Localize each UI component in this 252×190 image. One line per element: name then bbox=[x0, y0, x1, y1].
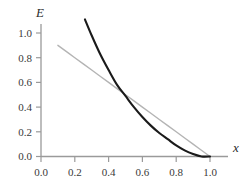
axes-group bbox=[41, 24, 228, 157]
y-tick-label: 0.0 bbox=[18, 150, 32, 162]
y-axis-label: E bbox=[35, 5, 44, 20]
series-group bbox=[58, 19, 210, 156]
y-tick-label: 0.8 bbox=[18, 52, 32, 64]
y-tick-label: 0.4 bbox=[18, 101, 32, 113]
x-tick-label: 0.8 bbox=[169, 166, 183, 178]
x-axis-ticks bbox=[41, 157, 210, 163]
x-tick-label: 0.2 bbox=[68, 166, 82, 178]
x-tick-label: 0.6 bbox=[136, 166, 150, 178]
x-tick-label: 0.4 bbox=[102, 166, 116, 178]
series-black-curve bbox=[85, 19, 210, 156]
chart-figure: 0.00.20.40.60.81.0 0.00.20.40.60.81.0 E … bbox=[0, 0, 252, 190]
x-tick-label: 0.0 bbox=[34, 166, 48, 178]
y-tick-label: 1.0 bbox=[18, 27, 32, 39]
y-tick-label: 0.2 bbox=[18, 126, 32, 138]
x-axis-tick-labels: 0.00.20.40.60.81.0 bbox=[34, 166, 217, 178]
plot-canvas: 0.00.20.40.60.81.0 0.00.20.40.60.81.0 E … bbox=[0, 0, 252, 190]
y-axis-ticks bbox=[36, 33, 41, 157]
x-axis-label: x bbox=[232, 140, 239, 155]
series-gray-line bbox=[58, 45, 210, 156]
x-tick-label: 1.0 bbox=[203, 166, 217, 178]
y-axis-tick-labels: 0.00.20.40.60.81.0 bbox=[18, 27, 32, 163]
y-tick-label: 0.6 bbox=[18, 76, 32, 88]
